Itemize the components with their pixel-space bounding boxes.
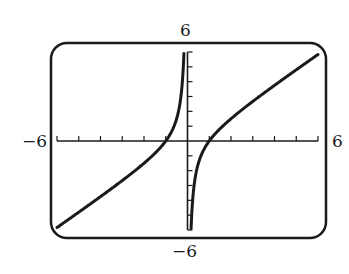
axes bbox=[57, 52, 318, 230]
ymin-label: −6 bbox=[172, 243, 197, 260]
graph-plot bbox=[0, 0, 349, 274]
ymax-label: 6 bbox=[180, 22, 191, 39]
xmin-label: −6 bbox=[22, 133, 47, 150]
xmax-label: 6 bbox=[332, 133, 343, 150]
